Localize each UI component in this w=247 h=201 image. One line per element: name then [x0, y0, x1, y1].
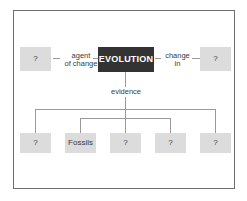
link-label-agent-of-change: agent of change [60, 52, 102, 69]
node-label: ? [33, 55, 37, 63]
connector-right-label-to-node [192, 58, 200, 59]
node-label: ? [168, 139, 172, 147]
link-label-evidence: evidence [107, 87, 145, 97]
node-label: ? [213, 55, 217, 63]
connector-drop-node-5 [215, 109, 216, 134]
link-label-change-in: change in [161, 52, 194, 69]
node-evidence-1[interactable]: ? [20, 133, 51, 153]
connector-drop-node-4 [170, 118, 171, 134]
connector-drop-node-2 [80, 118, 81, 134]
node-label: ? [123, 139, 127, 147]
node-evidence-3[interactable]: ? [110, 133, 141, 153]
node-label: EVOLUTION [99, 55, 153, 64]
node-evidence-2-fossils[interactable]: Fossils [65, 133, 96, 153]
node-label: ? [213, 139, 217, 147]
node-label: Fossils [68, 139, 93, 147]
node-label: ? [33, 139, 37, 147]
node-evolution[interactable]: EVOLUTION [98, 47, 154, 72]
connector-drop-node-3 [125, 109, 126, 134]
diagram-canvas: ? agent of change EVOLUTION change in ? … [0, 0, 247, 201]
node-evidence-4[interactable]: ? [155, 133, 186, 153]
node-change-in-answer[interactable]: ? [200, 47, 231, 71]
node-evidence-5[interactable]: ? [200, 133, 231, 153]
connector-drop-node-1 [35, 109, 36, 134]
node-agent-of-change-answer[interactable]: ? [20, 47, 51, 71]
diagram-frame: ? agent of change EVOLUTION change in ? … [13, 10, 235, 189]
